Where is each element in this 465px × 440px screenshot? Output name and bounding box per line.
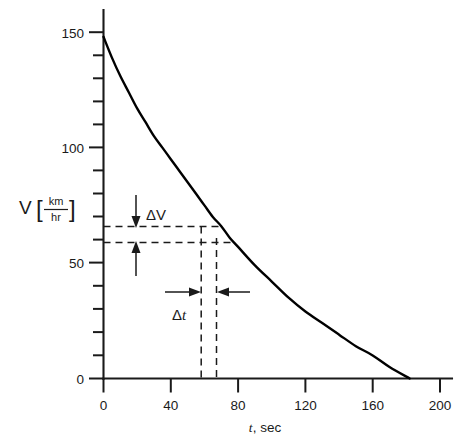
y-axis-title-numerator: km: [49, 195, 64, 207]
delta-t-left-arrow-head: [217, 288, 229, 297]
delta-t-annotation: Δt: [165, 288, 250, 324]
x-tick-label-0: 0: [100, 398, 108, 413]
delta-v-label: ΔV: [146, 206, 166, 223]
delta-t-label-variable: t: [182, 307, 187, 323]
x-tick-label-80: 80: [231, 398, 246, 413]
x-axis-tick-labels: 0 40 80 120 160 200: [100, 398, 452, 413]
guide-lines-group: [104, 227, 235, 379]
y-axis-ticks: [89, 32, 104, 378]
x-tick-label-40: 40: [163, 398, 178, 413]
x-tick-label-160: 160: [361, 398, 384, 413]
x-axis-title-group: t, sec: [249, 420, 282, 435]
y-tick-label-50: 50: [69, 256, 84, 271]
axes-group: [104, 10, 453, 379]
delta-t-label: Δt: [172, 306, 187, 323]
y-tick-label-100: 100: [61, 141, 84, 156]
y-axis-title-bracket-close: ]: [69, 195, 76, 222]
x-axis-ticks: [104, 379, 441, 393]
y-tick-label-150: 150: [61, 26, 84, 41]
x-axis-title-unit: , sec: [253, 420, 282, 435]
delta-t-label-delta: Δ: [172, 306, 182, 323]
y-axis-title-symbol: V: [19, 197, 32, 218]
y-axis-title-group: V [ km hr ]: [19, 195, 76, 223]
x-axis-title: t, sec: [249, 420, 282, 435]
velocity-time-plot: 150 100 50 0 0 40 80 120 160 200 t, sec: [0, 0, 465, 440]
x-tick-label-200: 200: [429, 398, 452, 413]
y-axis-title-denominator: hr: [51, 211, 61, 223]
delta-t-right-arrow-head: [189, 288, 201, 297]
y-axis-title-bracket-open: [: [36, 195, 43, 222]
y-tick-label-0: 0: [76, 372, 84, 387]
delta-v-annotation: ΔV: [132, 195, 167, 276]
x-tick-label-120: 120: [294, 398, 317, 413]
chart-figure: 150 100 50 0 0 40 80 120 160 200 t, sec: [0, 0, 465, 440]
